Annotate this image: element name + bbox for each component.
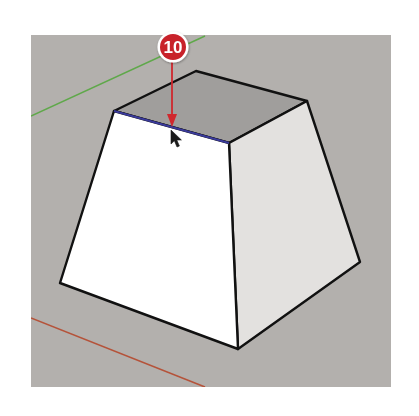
step-number-badge: 10 bbox=[158, 32, 189, 63]
sketchup-viewport-scene: 10 bbox=[0, 0, 419, 416]
step-number-label: 10 bbox=[164, 38, 183, 57]
